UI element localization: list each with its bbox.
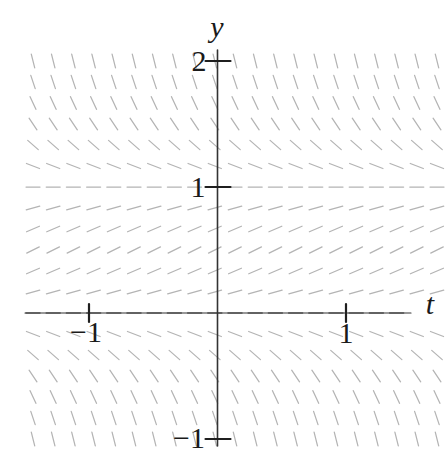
slope-segment <box>289 268 302 274</box>
slope-segment <box>26 290 40 294</box>
slope-segment <box>310 247 323 253</box>
slope-segment <box>375 54 378 68</box>
slope-segment <box>31 54 34 68</box>
slope-segment <box>330 268 343 274</box>
slope-segment <box>373 391 379 404</box>
slope-segment <box>374 411 378 424</box>
slope-segment <box>67 290 81 294</box>
slope-segment <box>269 206 283 210</box>
slope-segment <box>152 54 155 68</box>
slope-segment <box>273 411 277 424</box>
slope-segment <box>370 226 383 232</box>
slope-segment <box>289 206 303 210</box>
slope-segment <box>309 332 322 337</box>
slope-segment <box>208 290 222 294</box>
slope-segment <box>168 206 182 210</box>
y-axis-label: y <box>210 12 223 42</box>
slope-segment <box>248 290 262 294</box>
slope-segment <box>87 268 100 274</box>
slope-segment <box>208 268 221 274</box>
slope-segment <box>87 290 101 294</box>
slope-segment <box>27 226 40 232</box>
slope-segment <box>314 75 318 88</box>
slope-segment <box>28 140 39 149</box>
slope-segment <box>171 97 177 110</box>
slope-segment <box>332 118 340 130</box>
slope-segment <box>49 370 57 382</box>
slope-segment <box>188 268 201 274</box>
slope-segment <box>374 75 378 88</box>
slope-segment <box>26 332 39 337</box>
slope-segment <box>272 391 278 404</box>
slope-segment <box>48 140 59 149</box>
slope-segment <box>169 140 180 149</box>
slope-segment <box>147 290 161 294</box>
slope-segment <box>27 247 40 253</box>
slope-segment <box>333 97 339 110</box>
slope-segment <box>128 226 141 232</box>
slope-segment <box>248 206 262 210</box>
slope-segment <box>107 226 120 232</box>
slope-segment <box>69 118 77 130</box>
slope-segment <box>252 97 258 110</box>
slope-segment <box>309 206 323 210</box>
slope-segment <box>192 97 198 110</box>
slope-segment <box>149 140 160 149</box>
slope-segment <box>269 226 282 232</box>
slope-segment <box>293 391 299 404</box>
slope-segment <box>231 118 239 130</box>
slope-segment <box>370 247 383 253</box>
slope-segment <box>330 226 343 232</box>
slope-segment <box>329 164 342 169</box>
slope-segment <box>132 432 135 446</box>
t-tick-label-neg1: −1 <box>70 317 102 347</box>
slope-segment <box>273 75 277 88</box>
t-tick-label-1: 1 <box>339 318 354 348</box>
slope-segment <box>91 391 97 404</box>
slope-segment <box>269 332 282 337</box>
slope-segment <box>112 75 116 88</box>
slope-segment <box>47 226 60 232</box>
slope-segment <box>293 97 299 110</box>
slope-segment <box>229 226 242 232</box>
slope-segment <box>329 206 343 210</box>
slope-segment <box>250 350 261 359</box>
slope-segment <box>27 268 40 274</box>
slope-segment <box>410 290 424 294</box>
slope-segment <box>112 54 115 68</box>
slope-segment <box>391 350 402 359</box>
slope-segment <box>90 118 98 130</box>
slope-segment <box>431 247 444 253</box>
slope-field-figure: y t 2 1 −1 −1 1 <box>0 0 448 473</box>
slope-segment <box>210 350 221 359</box>
slope-segment <box>430 164 443 169</box>
y-tick-label-neg1: −1 <box>173 423 205 453</box>
slope-segment <box>435 75 439 88</box>
slope-segment <box>253 432 256 446</box>
slope-segment <box>391 140 402 149</box>
slope-segment <box>370 164 383 169</box>
slope-segment <box>152 75 156 88</box>
slope-segment <box>289 290 303 294</box>
slope-segment <box>294 54 297 68</box>
slope-segment <box>350 164 363 169</box>
slope-segment <box>129 140 140 149</box>
slope-segment <box>433 370 441 382</box>
slope-segment <box>128 247 141 253</box>
slope-segment <box>50 391 56 404</box>
slope-segment <box>249 268 262 274</box>
slope-segment <box>107 164 120 169</box>
slope-segment <box>151 97 157 110</box>
slope-segment <box>394 411 398 424</box>
slope-segment <box>372 118 380 130</box>
slope-segment <box>149 350 160 359</box>
slope-segment <box>91 411 95 424</box>
slope-segment <box>415 411 419 424</box>
slope-segment <box>173 54 176 68</box>
slope-segment <box>334 75 338 88</box>
slope-segment <box>87 164 100 169</box>
slope-segment <box>415 54 418 68</box>
slope-segment <box>51 432 54 446</box>
y-tick-label-1: 1 <box>191 172 206 202</box>
slope-segment <box>249 164 262 169</box>
